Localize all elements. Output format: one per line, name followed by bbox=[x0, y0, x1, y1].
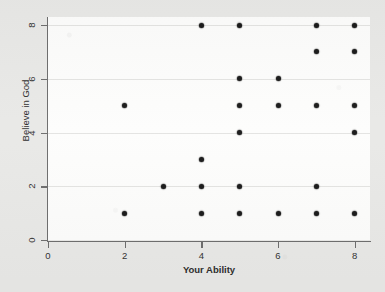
y-axis-title: Believe in God bbox=[20, 61, 31, 161]
y-tick-label-text: 0 bbox=[26, 234, 38, 246]
data-point bbox=[352, 130, 357, 135]
data-point bbox=[237, 130, 242, 135]
data-point bbox=[314, 23, 319, 28]
y-tick-label-text: 8 bbox=[26, 19, 38, 31]
data-point bbox=[314, 49, 319, 54]
data-point bbox=[199, 211, 204, 216]
data-point bbox=[352, 211, 357, 216]
x-tick-label-2: 2 bbox=[115, 250, 135, 261]
data-point bbox=[276, 211, 281, 216]
data-point bbox=[352, 23, 357, 28]
x-tick-label-6: 6 bbox=[268, 250, 288, 261]
x-tick-label-0: 0 bbox=[38, 250, 58, 261]
gridline-y-6 bbox=[48, 79, 370, 80]
x-axis-line bbox=[47, 241, 371, 242]
data-point bbox=[237, 184, 242, 189]
y-tick-4 bbox=[41, 133, 47, 134]
gridline-y-4 bbox=[48, 133, 370, 134]
x-axis-title: Your Ability bbox=[48, 264, 370, 275]
y-tick-label-text: 2 bbox=[26, 180, 38, 192]
data-point bbox=[237, 103, 242, 108]
x-tick-4 bbox=[201, 242, 202, 248]
data-point bbox=[199, 184, 204, 189]
y-axis-line bbox=[47, 17, 48, 242]
y-tick-label-0: 0 bbox=[26, 234, 38, 246]
data-point bbox=[199, 23, 204, 28]
data-point bbox=[314, 211, 319, 216]
x-tick-0 bbox=[48, 242, 49, 248]
data-point bbox=[237, 23, 242, 28]
y-tick-label-2: 2 bbox=[26, 180, 38, 192]
data-point bbox=[314, 184, 319, 189]
data-point bbox=[122, 103, 127, 108]
gridline-y-8 bbox=[48, 25, 370, 26]
data-point bbox=[352, 49, 357, 54]
data-point bbox=[237, 76, 242, 81]
data-point bbox=[352, 103, 357, 108]
data-point bbox=[276, 76, 281, 81]
gridline-y-2 bbox=[48, 186, 370, 187]
y-tick-6 bbox=[41, 79, 47, 80]
data-point bbox=[276, 103, 281, 108]
x-tick-label-8: 8 bbox=[345, 250, 365, 261]
y-tick-2 bbox=[41, 186, 47, 187]
x-tick-8 bbox=[355, 242, 356, 248]
x-tick-2 bbox=[125, 242, 126, 248]
data-point bbox=[237, 211, 242, 216]
data-point bbox=[122, 211, 127, 216]
data-point bbox=[314, 103, 319, 108]
y-tick-0 bbox=[41, 240, 47, 241]
scatter-plot-figure: 02468 02468 Believe in God Your Ability bbox=[0, 0, 385, 292]
data-point bbox=[199, 157, 204, 162]
plot-panel bbox=[48, 17, 370, 240]
data-point bbox=[161, 184, 166, 189]
x-tick-label-4: 4 bbox=[191, 250, 211, 261]
x-tick-6 bbox=[278, 242, 279, 248]
y-tick-8 bbox=[41, 25, 47, 26]
y-tick-label-8: 8 bbox=[26, 19, 38, 31]
